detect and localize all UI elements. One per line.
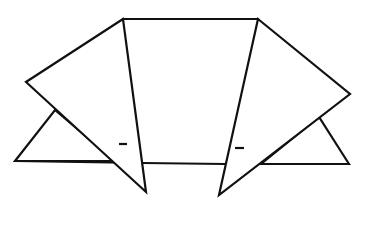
origami-diagram-canvas [0,0,370,229]
center-baseline [143,163,225,164]
right-flap [219,19,350,195]
left-flap [26,19,146,192]
origami-diagram [0,0,370,229]
